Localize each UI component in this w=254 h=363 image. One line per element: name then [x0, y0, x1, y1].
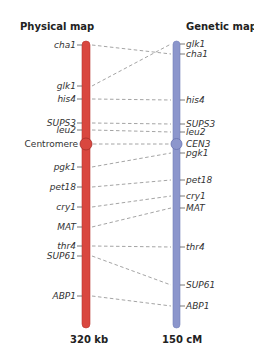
genetic-label-SUP61: SUP61 [186, 280, 215, 290]
genetic-chromosome-bar [173, 41, 180, 328]
connector-leu2 [92, 130, 171, 132]
genetic-centromere [171, 139, 182, 150]
physical-label-his4: his4 [6, 94, 76, 104]
marker-ticks [77, 44, 185, 306]
connector-lines [92, 44, 171, 306]
genetic-scale-label: 150 cM [162, 334, 202, 345]
genetic-label-his4: his4 [186, 95, 205, 105]
connector-his4 [92, 99, 171, 100]
genetic-label-cry1: cry1 [186, 191, 206, 201]
connector-thr4 [92, 246, 171, 247]
physical-scale-label: 320 kb [70, 334, 108, 345]
physical-label-ABP1: ABP1 [6, 291, 76, 301]
connector-pgk1 [92, 153, 171, 167]
genetic-label-MAT: MAT [186, 203, 205, 213]
connector-glk1 [92, 44, 171, 86]
physical-label-glk1: glk1 [6, 81, 76, 91]
connector-SUPS3 [92, 123, 171, 124]
physical-label-SUP61: SUP61 [6, 251, 76, 261]
physical-label-leu2: leu2 [6, 125, 76, 135]
genetic-label-ABP1: ABP1 [186, 301, 209, 311]
physical-label-thr4: thr4 [6, 241, 76, 251]
genetic-label-leu2: leu2 [186, 127, 205, 137]
physical-centromere [80, 138, 92, 150]
connector-cry1 [92, 196, 171, 207]
physical-label-MAT: MAT [6, 222, 76, 232]
genetic-label-cha1: cha1 [186, 49, 208, 59]
genetic-label-glk1: glk1 [186, 39, 205, 49]
connector-SUP61 [92, 256, 171, 285]
genetic-label-pgk1: pgk1 [186, 148, 208, 158]
physical-label-cry1: cry1 [6, 202, 76, 212]
genetic-label-pet18: pet18 [186, 175, 212, 185]
connector-pet18 [92, 180, 171, 187]
connector-cha1 [92, 45, 171, 54]
physical-label-pet18: pet18 [6, 182, 76, 192]
genetic-label-thr4: thr4 [186, 242, 205, 252]
physical-label-pgk1: pgk1 [6, 162, 76, 172]
connector-MAT [92, 208, 171, 227]
physical-label-cha1: cha1 [6, 40, 76, 50]
connector-ABP1 [92, 296, 171, 306]
physical-label-CEN3: Centromere [8, 139, 78, 149]
physical-chromosome-bar [82, 41, 90, 328]
